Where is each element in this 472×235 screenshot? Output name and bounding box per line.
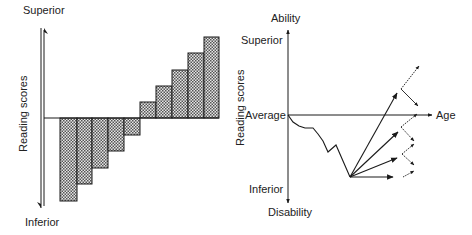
- branch-down-2: [401, 127, 414, 141]
- bar-4: [108, 118, 124, 151]
- left-superior-label: Superior: [23, 4, 65, 16]
- bar-8: [172, 70, 188, 118]
- axis-arrow-up-icon: [44, 28, 48, 34]
- bar-1: [60, 118, 77, 201]
- branch-up-4: [403, 171, 414, 177]
- bar-3: [92, 118, 108, 168]
- bars: [60, 37, 219, 201]
- age-label: Age: [436, 109, 456, 121]
- arrow-upper-mid: [350, 132, 398, 177]
- branch-arrows: [401, 66, 419, 177]
- branch-down-3: [402, 154, 414, 165]
- left-y-axis-label: Reading scores: [17, 75, 29, 152]
- left-bar-chart: Superior Inferior Reading scores: [17, 4, 219, 228]
- branch-down-1: [401, 89, 418, 106]
- axis-arrow-down-icon: [37, 202, 41, 208]
- arrow-steep: [350, 93, 397, 177]
- bar-7: [156, 86, 172, 118]
- left-inferior-label: Inferior: [25, 216, 60, 228]
- figure: Superior Inferior Reading scores Ability: [0, 0, 472, 235]
- right-inferior-label: Inferior: [249, 183, 284, 195]
- arrow-lower-mid: [350, 158, 397, 177]
- branch-up-2: [401, 114, 417, 127]
- outcome-arrows: [350, 93, 398, 177]
- disability-label: Disability: [268, 206, 313, 218]
- ability-label: Ability: [271, 12, 301, 24]
- bar-5: [124, 118, 140, 135]
- bar-6: [140, 102, 156, 118]
- decline-curve: [288, 115, 350, 177]
- right-y-axis-label: Reading scores: [234, 69, 246, 146]
- right-line-diagram: Ability Superior Average Inferior Disabi…: [234, 12, 456, 218]
- right-superior-label: Superior: [241, 34, 283, 46]
- bar-10: [204, 37, 219, 118]
- bar-2: [77, 118, 92, 184]
- branch-up-1: [401, 66, 419, 89]
- bar-9: [188, 53, 204, 118]
- branch-up-3: [402, 144, 414, 154]
- average-label: Average: [245, 109, 286, 121]
